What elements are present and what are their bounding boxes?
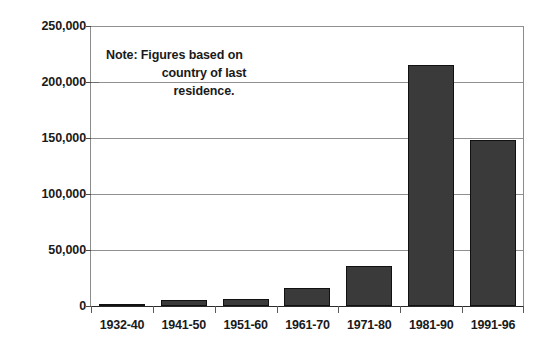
bar-slot-1961-70	[277, 26, 339, 306]
x-tick-5	[400, 306, 401, 313]
bar-1961-70[interactable]	[284, 288, 330, 306]
bar-1981-90[interactable]	[408, 65, 454, 306]
bar-slot-1981-90	[400, 26, 462, 306]
bar-slot-1941-50	[153, 26, 215, 306]
y-axis: 250,000 200,000 150,000 100,000 50,000 0	[0, 0, 86, 354]
x-label-1941-50: 1941-50	[153, 318, 215, 332]
bar-slot-1991-96	[462, 26, 524, 306]
x-label-1981-90: 1981-90	[400, 318, 462, 332]
x-tick-1	[153, 306, 154, 313]
x-tick-7	[523, 306, 524, 313]
bar-1971-80[interactable]	[346, 266, 392, 306]
x-axis: 1932-40 1941-50 1951-60 1961-70 1971-80 …	[91, 318, 524, 342]
x-label-1971-80: 1971-80	[338, 318, 400, 332]
x-tick-6	[462, 306, 463, 313]
bar-chart: 250,000 200,000 150,000 100,000 50,000 0…	[0, 0, 550, 354]
x-axis-ticks	[91, 306, 524, 314]
bar-slot-1932-40	[91, 26, 153, 306]
x-tick-4	[338, 306, 339, 313]
bar-1951-60[interactable]	[223, 299, 269, 306]
x-tick-2	[215, 306, 216, 313]
bar-slot-1971-80	[338, 26, 400, 306]
x-tick-3	[277, 306, 278, 313]
y-tick-label-100000: 100,000	[4, 187, 86, 201]
x-tick-0	[91, 306, 92, 313]
bar-slot-1951-60	[215, 26, 277, 306]
x-label-1991-96: 1991-96	[462, 318, 524, 332]
y-tick-label-0: 0	[4, 299, 86, 313]
x-label-1932-40: 1932-40	[91, 318, 153, 332]
y-tick-label-250000: 250,000	[4, 19, 86, 33]
x-label-1951-60: 1951-60	[215, 318, 277, 332]
y-tick-label-200000: 200,000	[4, 75, 86, 89]
bar-1991-96[interactable]	[470, 140, 516, 306]
x-label-1961-70: 1961-70	[277, 318, 339, 332]
y-tick-label-50000: 50,000	[4, 243, 86, 257]
bars-layer	[91, 26, 524, 306]
y-tick-label-150000: 150,000	[4, 131, 86, 145]
